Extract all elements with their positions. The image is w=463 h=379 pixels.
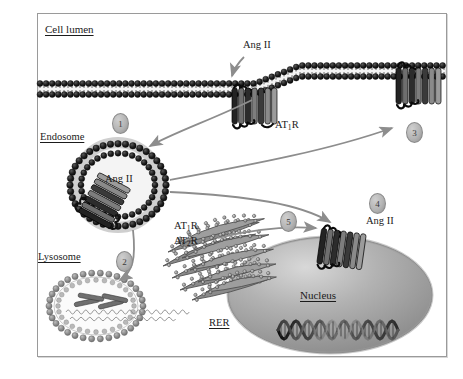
arrow-angii-binding bbox=[232, 57, 244, 76]
at1r-pm-prefix: AT bbox=[275, 119, 288, 130]
label-ang-ii-extracellular: Ang II bbox=[243, 40, 271, 51]
label-nucleus: Nucleus bbox=[300, 290, 336, 301]
receptor-at1r-recycled bbox=[396, 62, 441, 108]
label-rer: RER bbox=[209, 318, 229, 329]
step-badge-4: 4 bbox=[369, 193, 386, 214]
arrow-step-4-to-nucleus bbox=[170, 192, 330, 222]
label-ang-ii-nuclear: Ang II bbox=[366, 216, 394, 227]
at2r-rer-prefix: AT bbox=[174, 235, 187, 246]
arrow-step-3-recycling bbox=[170, 128, 392, 180]
at1r-rer-suffix: R bbox=[191, 220, 198, 231]
label-lysosome: Lysosome bbox=[38, 252, 81, 263]
step-badge-2: 2 bbox=[116, 251, 133, 272]
step-badge-1: 1 bbox=[112, 113, 129, 134]
diagram-graphics bbox=[0, 0, 463, 379]
at1r-pm-suffix: R bbox=[292, 119, 299, 130]
diagram-canvas: Cell lumen Endosome Lysosome RER Nucleus… bbox=[0, 0, 463, 379]
step-badge-5: 5 bbox=[280, 211, 297, 232]
label-at1r-plasma-membrane: AT1R bbox=[275, 120, 299, 131]
at1r-rer-prefix: AT bbox=[174, 220, 187, 231]
label-endosome: Endosome bbox=[40, 132, 84, 143]
label-at2r-rer: AT2R bbox=[174, 236, 198, 247]
label-cell-lumen: Cell lumen bbox=[45, 24, 94, 35]
label-ang-ii-endosome: Ang II bbox=[105, 174, 133, 185]
lysosome-vesicle bbox=[46, 270, 189, 342]
step-badge-3: 3 bbox=[406, 122, 423, 143]
at2r-rer-suffix: R bbox=[191, 235, 198, 246]
label-at1r-rer: AT1R bbox=[174, 221, 198, 232]
